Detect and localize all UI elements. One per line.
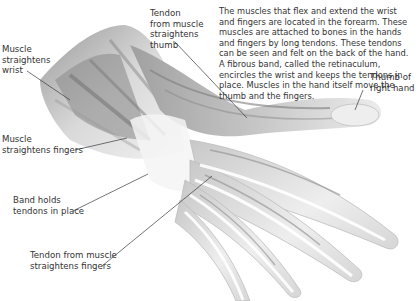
label-muscle-wrist: Muscle straightens wrist bbox=[2, 44, 51, 76]
fingers bbox=[175, 140, 398, 301]
label-muscle-fingers: Muscle straightens fingers bbox=[2, 134, 83, 155]
label-tendon-fingers: Tendon from muscle straightens fingers bbox=[30, 250, 117, 271]
label-band: Band holds tendons in place bbox=[13, 195, 84, 216]
label-thumb: Thumb of right hand bbox=[370, 72, 415, 93]
label-tendon-thumb: Tendon from muscle straightens thumb bbox=[150, 8, 203, 50]
